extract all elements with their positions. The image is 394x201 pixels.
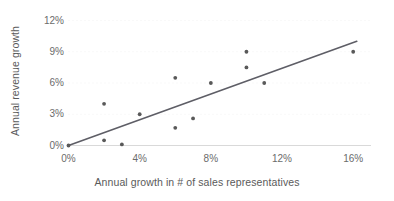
x-axis-tick-label: 16%: [333, 154, 373, 164]
scatter-chart: 0%3%6%9%12% 0%4%8%12%16% Annual revenue …: [0, 0, 394, 201]
x-axis-title: Annual growth in # of sales representati…: [0, 176, 394, 188]
x-axis-tick-label: 12%: [262, 154, 302, 164]
x-axis-tick-label: 0%: [49, 154, 89, 164]
x-axis-tick-label: 8%: [191, 154, 231, 164]
x-axis-tick-labels: 0%4%8%12%16%: [0, 0, 394, 201]
y-axis-title: Annual revenue growth: [4, 6, 26, 156]
x-axis-tick-label: 4%: [120, 154, 160, 164]
